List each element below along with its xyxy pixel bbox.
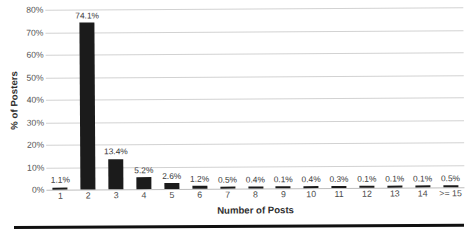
bar [387, 186, 402, 188]
y-tick-label: 30% [4, 118, 44, 127]
bar [136, 177, 151, 189]
plot-area: 1.1%74.1%13.4%5.2%2.6%1.2%0.5%0.4%0.1%0.… [45, 7, 464, 200]
y-tick-label: 50% [4, 73, 44, 82]
bar-value-label: 13.4% [96, 148, 136, 157]
x-tick-label: >= 15 [428, 189, 472, 198]
bar [108, 159, 123, 189]
bar [248, 187, 263, 189]
x-axis-title: Number of Posts [47, 203, 465, 217]
y-tick-label: 40% [4, 96, 44, 105]
bar [443, 186, 458, 188]
bar-value-label: 74.1% [67, 11, 107, 20]
y-tick-label: 80% [3, 6, 43, 15]
chart-skew-wrapper: % of Posters 0%10%20%30%40%50%60%70%80% … [0, 0, 472, 237]
bar [415, 186, 430, 188]
bar [359, 186, 374, 188]
y-tick-label: 20% [4, 141, 44, 150]
y-axis-tick-labels: 0%10%20%30%40%50%60%70%80% [0, 0, 45, 237]
y-tick-label: 60% [4, 51, 44, 60]
bar [220, 187, 235, 189]
bars-layer: 1.1%74.1%13.4%5.2%2.6%1.2%0.5%0.4%0.1%0.… [45, 7, 464, 190]
bar [192, 186, 207, 189]
bar-value-label: 1.1% [40, 176, 80, 185]
bar [53, 187, 68, 190]
bar [164, 183, 179, 189]
bar-value-label: 0.5% [430, 174, 470, 183]
bar [80, 23, 96, 190]
y-tick-label: 70% [3, 28, 43, 37]
bar [304, 186, 319, 188]
y-tick-label: 10% [4, 163, 44, 172]
bar-chart-figure: % of Posters 0%10%20%30%40%50%60%70%80% … [0, 0, 472, 237]
bar [332, 186, 347, 188]
bar [276, 187, 291, 189]
